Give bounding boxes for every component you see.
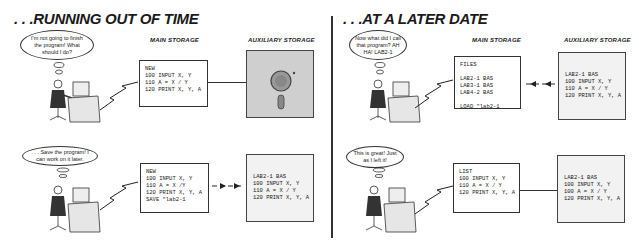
thought-bubble: . . . Save the program! I can work on it… <box>22 146 98 166</box>
connector-line <box>520 190 557 191</box>
auxiliary-storage-label: AUXILIARY STORAGE <box>248 37 315 43</box>
main-storage-screen: FILES LAB2-1 BAS LAB3-1 BAS LAB4-2 BAS L… <box>454 56 521 109</box>
floppy-disk: LAB2-1 BAS 100 INPUT X, Y 100 A = X / Y … <box>557 155 625 223</box>
panel-title-running-out-of-time: . . .RUNNING OUT OF TIME <box>14 10 198 27</box>
person-at-computer-illustration <box>40 168 105 232</box>
main-storage-screen: NEW 100 INPUT X, Y 110 A = X /Y 120 PRIN… <box>140 163 209 213</box>
thought-bubble: This is great! Just as I left it! <box>346 146 404 168</box>
thought-bubble: Now what did I call that program? AH HA!… <box>349 30 407 60</box>
person-at-computer-illustration <box>360 168 420 232</box>
connector-line <box>208 82 246 83</box>
panel-title-at-a-later-date: . . .AT A LATER DATE <box>343 10 488 27</box>
main-storage-screen: NEW 100 INPUT X, Y 110 A = X / Y 120 PRI… <box>139 60 208 107</box>
thought-bubble: I'm not going to finish the program! Wha… <box>20 30 94 60</box>
lightning-connector-icon <box>100 182 140 212</box>
auxiliary-storage-label: AUXILIARY STORAGE <box>564 37 631 43</box>
lightning-connector-icon <box>415 186 455 216</box>
floppy-disk: LAB2-1 BAS 100 INPUT X, Y 110 A = X / Y … <box>558 52 626 120</box>
floppy-disk <box>246 50 314 118</box>
person-at-computer-illustration <box>40 62 105 122</box>
floppy-disk: LAB2-1 BAS 100 INPUT X, Y 110 A = X / Y … <box>246 154 314 222</box>
arrow-left-icon <box>524 80 560 88</box>
arrow-right-icon <box>212 182 246 190</box>
lightning-connector-icon <box>415 80 455 110</box>
main-storage-label: MAIN STORAGE <box>150 37 199 43</box>
main-storage-label: MAIN STORAGE <box>472 37 521 43</box>
panel-divider <box>331 16 333 238</box>
main-storage-screen: LIST 100 INPUT X, Y 110 A = X / Y 120 PR… <box>453 163 520 213</box>
lightning-connector-icon <box>100 82 140 112</box>
